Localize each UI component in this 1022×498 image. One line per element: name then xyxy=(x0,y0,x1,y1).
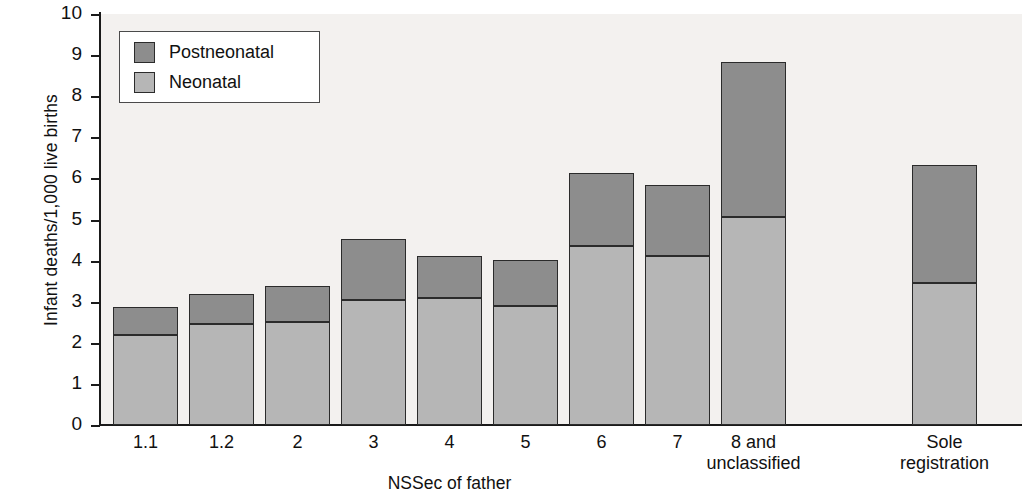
y-tick-mark xyxy=(91,137,100,139)
bar-8-and-unclassified xyxy=(721,62,786,425)
bar-segment-postneonatal xyxy=(912,165,977,283)
bar-segment-neonatal xyxy=(912,283,977,425)
bar-segment-postneonatal xyxy=(493,260,558,306)
bar-segment-neonatal xyxy=(569,246,634,425)
bar-segment-postneonatal xyxy=(569,173,634,246)
chart-legend: Postneonatal Neonatal xyxy=(119,31,320,103)
y-tick-mark xyxy=(91,178,100,180)
y-tick-mark xyxy=(91,302,100,304)
x-tick-label: Soleregistration xyxy=(877,432,1012,474)
bar-5 xyxy=(493,260,558,425)
y-tick-mark xyxy=(91,261,100,263)
x-tick-label: 8 andunclassified xyxy=(686,432,821,474)
legend-label-neonatal: Neonatal xyxy=(169,72,241,93)
bar-7 xyxy=(645,185,710,425)
bar-4 xyxy=(417,256,482,425)
bar-6 xyxy=(569,173,634,425)
bar-segment-postneonatal xyxy=(189,294,254,324)
y-tick-label: 0 xyxy=(16,414,82,433)
bar-2 xyxy=(265,286,330,425)
y-tick-mark xyxy=(91,343,100,345)
bar-3 xyxy=(341,239,406,425)
bar-segment-neonatal xyxy=(645,256,710,425)
y-tick-label: 6 xyxy=(16,167,82,186)
legend-swatch-neonatal xyxy=(134,72,155,93)
legend-item-neonatal: Neonatal xyxy=(134,70,241,94)
y-tick-label: 10 xyxy=(16,3,82,22)
bar-segment-postneonatal xyxy=(341,239,406,299)
y-tick-label: 9 xyxy=(16,44,82,63)
bar-segment-postneonatal xyxy=(645,185,710,257)
bar-segment-neonatal xyxy=(721,217,786,425)
bar-segment-neonatal xyxy=(493,306,558,425)
bar-segment-postneonatal xyxy=(113,307,178,335)
y-tick-mark xyxy=(91,384,100,386)
bar-segment-neonatal xyxy=(417,298,482,425)
y-tick-mark xyxy=(91,425,100,427)
bar-segment-neonatal xyxy=(113,335,178,425)
bar-segment-neonatal xyxy=(189,324,254,425)
y-tick-label: 1 xyxy=(16,373,82,392)
bar-segment-postneonatal xyxy=(721,62,786,217)
y-tick-label: 2 xyxy=(16,332,82,351)
bar-segment-neonatal xyxy=(341,300,406,425)
bar-sole-registration xyxy=(912,165,977,425)
bar-segment-postneonatal xyxy=(417,256,482,298)
y-tick-label: 4 xyxy=(16,250,82,269)
y-tick-mark xyxy=(91,220,100,222)
y-tick-label: 3 xyxy=(16,291,82,310)
legend-label-postneonatal: Postneonatal xyxy=(169,42,274,63)
legend-swatch-postneonatal xyxy=(134,42,155,63)
y-tick-label: 7 xyxy=(16,126,82,145)
bar-1-2 xyxy=(189,294,254,425)
y-tick-mark xyxy=(91,14,100,16)
y-tick-mark xyxy=(91,55,100,57)
y-tick-mark xyxy=(91,96,100,98)
bar-1-1 xyxy=(113,307,178,425)
legend-item-postneonatal: Postneonatal xyxy=(134,40,274,64)
infant-mortality-stacked-bar-chart: Infant deaths/1,000 live births 01234567… xyxy=(0,0,1022,498)
bar-segment-postneonatal xyxy=(265,286,330,322)
y-tick-label: 5 xyxy=(16,209,82,228)
y-tick-label: 8 xyxy=(16,85,82,104)
x-axis-title: NSSec of father xyxy=(73,473,826,494)
bar-segment-neonatal xyxy=(265,322,330,425)
